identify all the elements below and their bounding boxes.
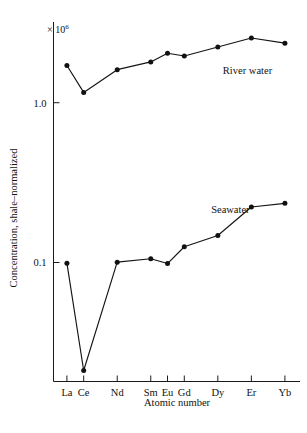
data-point-Er [249, 36, 254, 41]
series-label-river-water: River water [223, 65, 273, 76]
data-point-La [64, 261, 69, 266]
data-point-Ce [81, 368, 86, 373]
data-point-Gd [182, 54, 187, 59]
data-point-Nd [115, 67, 120, 72]
x-tick-label-Yb: Yb [278, 387, 291, 398]
x-tick-label-Eu: Eu [162, 387, 174, 398]
x-tick-label-Sm: Sm [144, 387, 158, 398]
series-label-group: River waterSeawater [211, 65, 273, 215]
y-tick-label-0.1: 0.1 [33, 257, 46, 268]
series-line [67, 203, 285, 370]
data-point-Yb [282, 41, 287, 46]
data-point-La [64, 63, 69, 68]
data-point-Eu [165, 51, 170, 56]
data-point-Nd [115, 260, 120, 265]
series-layer [64, 36, 287, 373]
x-tick-label-group: LaCeNdSmEuGdDyErYb [61, 387, 291, 398]
x-tick-label-La: La [61, 387, 72, 398]
x-tick-label-Gd: Gd [178, 387, 192, 398]
ree-concentration-chart: 1.00.1 LaCeNdSmEuGdDyErYb River waterSea… [0, 0, 307, 433]
x-tick-label-Er: Er [246, 387, 256, 398]
y-tick-label-group: 1.00.1 [33, 98, 46, 269]
y-tick-label-1.0: 1.0 [33, 98, 46, 109]
data-point-Dy [215, 45, 220, 50]
data-point-Gd [182, 244, 187, 249]
x-tick-label-Nd: Nd [111, 387, 125, 398]
series-seawater [64, 201, 287, 373]
x-tick-group [67, 376, 285, 382]
y-axis-scale-note: × 106 [47, 23, 69, 35]
data-point-Sm [148, 256, 153, 261]
figure-container: 1.00.1 LaCeNdSmEuGdDyErYb River waterSea… [0, 0, 307, 433]
data-point-Dy [215, 233, 220, 238]
y-axis-title: Concentration, shale–normalized [8, 148, 19, 288]
data-point-Ce [81, 90, 86, 95]
series-label-seawater: Seawater [211, 204, 250, 215]
x-tick-label-Dy: Dy [211, 387, 225, 398]
x-tick-label-Ce: Ce [78, 387, 90, 398]
x-axis-title: Atomic number [144, 397, 211, 408]
data-point-Sm [148, 59, 153, 64]
axes-group [54, 22, 301, 382]
data-point-Eu [165, 261, 170, 266]
data-point-Yb [282, 201, 287, 206]
y-tick-group [54, 103, 60, 263]
